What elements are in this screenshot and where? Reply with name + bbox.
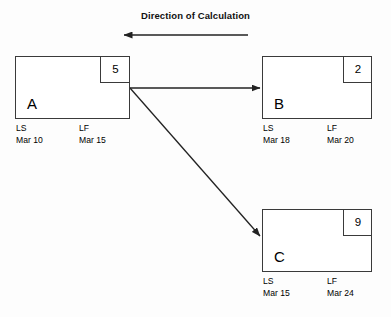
activity-label-a: A (27, 96, 37, 111)
activity-label-b: B (274, 96, 284, 111)
ls-date-c: Mar 15 (263, 288, 290, 300)
ls-date-a: Mar 10 (16, 135, 43, 147)
lf-label-a: LF Mar 15 (79, 123, 106, 146)
ls-code-b: LS (263, 123, 290, 135)
ls-code-a: LS (16, 123, 43, 135)
ls-date-b: Mar 18 (263, 135, 290, 147)
ls-label-a: LS Mar 10 (16, 123, 43, 146)
lf-code-c: LF (327, 276, 354, 288)
activity-box-c[interactable]: 9 C (262, 209, 372, 272)
activity-box-a[interactable]: 5 A (15, 56, 130, 119)
lf-code-a: LF (79, 123, 106, 135)
lf-code-b: LF (327, 123, 354, 135)
ls-label-b: LS Mar 18 (263, 123, 290, 146)
lf-label-c: LF Mar 24 (327, 276, 354, 299)
lf-date-c: Mar 24 (327, 288, 354, 300)
ls-code-c: LS (263, 276, 290, 288)
arrow-a-to-c (130, 88, 260, 236)
lf-label-b: LF Mar 20 (327, 123, 354, 146)
duration-cell-a: 5 (100, 56, 130, 83)
duration-cell-c: 9 (343, 209, 372, 236)
duration-cell-b: 2 (343, 56, 372, 83)
activity-box-b[interactable]: 2 B (262, 56, 372, 119)
page-title: Direction of Calculation (0, 10, 391, 21)
diagram-canvas: Direction of Calculation 5 A LS Mar 10 L… (0, 0, 391, 317)
ls-label-c: LS Mar 15 (263, 276, 290, 299)
lf-date-b: Mar 20 (327, 135, 354, 147)
activity-label-c: C (274, 249, 285, 264)
lf-date-a: Mar 15 (79, 135, 106, 147)
